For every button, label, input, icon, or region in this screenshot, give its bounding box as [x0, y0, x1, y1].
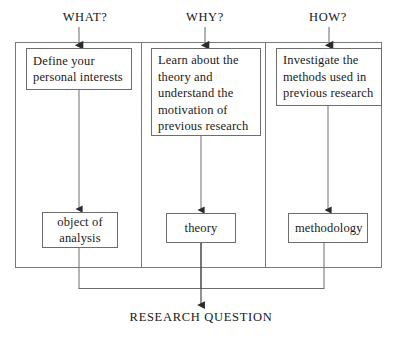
node-text-line: understand the — [158, 85, 254, 102]
node-text-line: methodology — [295, 220, 361, 237]
node-label: theory — [173, 220, 229, 237]
column-header-what: WHAT? — [30, 10, 140, 25]
node-define-personal-interests: Define your personal interests — [26, 48, 132, 90]
node-text-line: personal interests — [33, 69, 125, 86]
node-text-line: motivation of — [158, 102, 254, 119]
node-label: object of analysis — [49, 214, 111, 247]
node-text-line: theory and — [158, 69, 254, 86]
node-methodology: methodology — [288, 213, 368, 243]
node-text-line: Define your — [33, 53, 125, 70]
column-header-how: HOW? — [278, 10, 378, 25]
node-learn-theory-motivation: Learn about the theory and understand th… — [151, 48, 261, 136]
node-investigate-methods: Investigate the methods used in previous… — [276, 48, 382, 106]
node-text-line: Investigate the — [283, 52, 375, 69]
node-theory: theory — [166, 213, 236, 243]
node-label: Investigate the methods used in previous… — [283, 52, 375, 102]
node-text-line: Learn about the — [158, 52, 254, 69]
node-label: methodology — [295, 220, 361, 237]
node-text-line: analysis — [49, 230, 111, 247]
node-label: Learn about the theory and understand th… — [158, 52, 254, 135]
node-text-line: methods used in — [283, 69, 375, 86]
node-label: Define your personal interests — [33, 53, 125, 86]
node-object-of-analysis: object of analysis — [42, 212, 118, 248]
node-text-line: previous research — [158, 118, 254, 135]
research-question-flowchart: WHAT? WHY? HOW? Define your personal int… — [0, 0, 395, 338]
research-question-label: RESEARCH QUESTION — [63, 310, 339, 325]
node-text-line: theory — [173, 220, 229, 237]
node-text-line: previous research — [283, 85, 375, 102]
column-header-why: WHY? — [155, 10, 255, 25]
node-text-line: object of — [49, 214, 111, 231]
